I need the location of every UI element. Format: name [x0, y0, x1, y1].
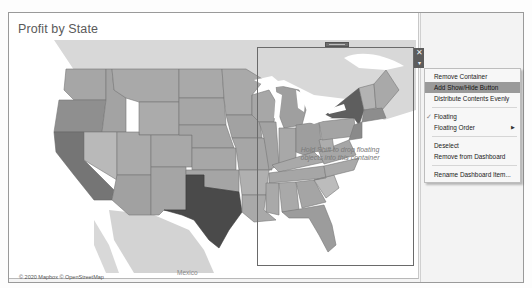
- menu-item-deselect[interactable]: Deselect: [425, 140, 520, 151]
- close-icon[interactable]: ✕: [414, 48, 424, 58]
- state-WY: [139, 102, 179, 135]
- menu-item-rename-dashboard-item[interactable]: Rename Dashboard Item...: [425, 169, 520, 180]
- menu-item-label: Floating Order: [434, 124, 475, 131]
- menu-item-add-show-hide-button[interactable]: Add Show/Hide Button: [425, 82, 520, 93]
- state-NM: [151, 167, 186, 215]
- menu-item-remove-container[interactable]: Remove Container: [425, 71, 520, 82]
- state-WA: [64, 69, 106, 100]
- state-SD: [179, 98, 226, 125]
- state-OR: [54, 100, 106, 132]
- checkmark-icon: ✓: [425, 111, 433, 122]
- menu-item-label: Distribute Contents Evenly: [434, 95, 509, 102]
- menu-item-floating-order[interactable]: Floating Order ▶: [425, 122, 520, 133]
- submenu-arrow-icon: ▶: [511, 122, 515, 133]
- drop-hint-line1: Hold Shift to drop floating: [285, 146, 395, 154]
- more-options-chevron-icon[interactable]: ▾: [414, 58, 424, 68]
- state-UT: [117, 132, 151, 175]
- menu-separator: [432, 107, 517, 108]
- menu-item-label: Floating: [434, 113, 457, 120]
- menu-item-floating[interactable]: ✓ Floating: [425, 111, 520, 122]
- menu-item-distribute-contents-evenly[interactable]: Distribute Contents Evenly: [425, 93, 520, 104]
- menu-item-label: Remove from Dashboard: [434, 153, 505, 160]
- context-menu: Remove Container Add Show/Hide Button Di…: [424, 68, 521, 183]
- menu-separator: [432, 136, 517, 137]
- drop-hint-text: Hold Shift to drop floating objects into…: [285, 146, 395, 162]
- menu-item-remove-from-dashboard[interactable]: Remove from Dashboard: [425, 151, 520, 162]
- state-ND: [179, 69, 224, 98]
- screenshot-canvas: Profit by State: [0, 0, 532, 288]
- menu-item-label: Rename Dashboard Item...: [434, 171, 511, 178]
- menu-item-label: Deselect: [434, 142, 459, 149]
- drop-hint-line2: objects into this container: [285, 154, 395, 162]
- map-attribution[interactable]: © 2020 Mapbox © OpenStreetMap: [19, 274, 104, 280]
- state-KS: [192, 148, 236, 170]
- menu-item-label: Remove Container: [434, 73, 487, 80]
- menu-item-label: Add Show/Hide Button: [434, 84, 498, 91]
- sheet-title: Profit by State: [18, 22, 98, 36]
- map-label-mexico: Mexico: [177, 269, 198, 276]
- container-drag-handle[interactable]: [325, 42, 349, 47]
- menu-separator: [432, 165, 517, 166]
- state-CO: [151, 135, 192, 167]
